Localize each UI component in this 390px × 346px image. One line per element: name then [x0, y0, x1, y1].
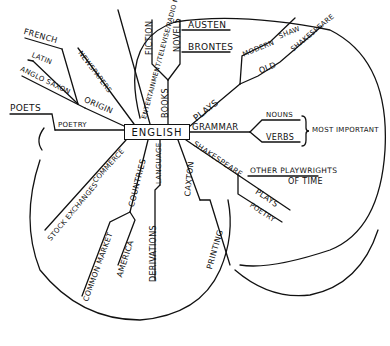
- node-derivations: DERIVATIONS: [150, 225, 158, 282]
- node-poets: POETS: [10, 104, 41, 113]
- node-books: BOOKS: [162, 88, 170, 118]
- mind-map-canvas: ENGLISH POETS POETRY FRENCH LATIN ANGLO …: [0, 0, 390, 346]
- node-grammar: GRAMMAR: [192, 123, 238, 132]
- node-fiction: FICTION: [146, 21, 154, 55]
- note-other-playwrights: OTHER PLAYWRIGHTS: [250, 167, 337, 175]
- node-poetry: POETRY: [58, 122, 87, 129]
- note-of-time: OF TIME: [288, 178, 323, 186]
- note-most-important: MOST IMPORTANT: [312, 127, 379, 134]
- center-node-english: ENGLISH: [124, 124, 190, 140]
- node-novels: NOVELS: [174, 18, 182, 52]
- node-brontes: BRONTES: [188, 43, 233, 52]
- node-austen: AUSTEN: [188, 21, 226, 30]
- node-nouns: NOUNS: [266, 112, 293, 119]
- node-verbs: VERBS: [266, 134, 294, 142]
- node-language: LANGUAGE: [156, 142, 163, 184]
